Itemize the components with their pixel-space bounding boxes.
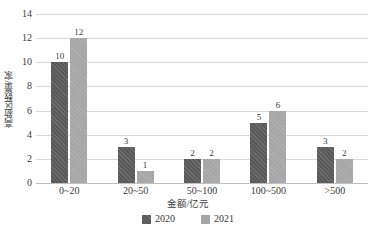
bar-group: 22 — [169, 14, 235, 183]
legend-swatch-icon — [201, 215, 210, 224]
x-axis-tick-labels: 0~2020~5050~100100~500>500 — [36, 185, 368, 199]
bar-2020-20~50[interactable]: 3 — [118, 147, 135, 183]
bar-value-label: 6 — [276, 101, 281, 110]
bar-value-label: 2 — [209, 149, 214, 158]
bar-column: 2 — [203, 14, 220, 183]
y-tick-label: 6 — [10, 106, 32, 116]
bar-value-label: 1 — [143, 161, 148, 170]
bar-column: 2 — [184, 14, 201, 183]
bar-value-label: 10 — [55, 52, 64, 61]
bar-column: 3 — [317, 14, 334, 183]
bar-2020-100~500[interactable]: 5 — [250, 123, 267, 183]
bar-column: 12 — [70, 14, 87, 183]
x-tick-label: >500 — [302, 185, 368, 199]
y-tick-label: 14 — [10, 9, 32, 19]
x-tick-label: 50~100 — [169, 185, 235, 199]
y-tick-label: 8 — [10, 81, 32, 91]
legend-label: 2021 — [214, 214, 234, 224]
y-tick-label: 12 — [10, 33, 32, 43]
y-tick-label: 10 — [10, 57, 32, 67]
bar-2021-50~100[interactable]: 2 — [203, 159, 220, 183]
y-tick-label: 2 — [10, 154, 32, 164]
bar-column: 10 — [51, 14, 68, 183]
bar-value-label: 3 — [323, 137, 328, 146]
bar-value-label: 3 — [124, 137, 129, 146]
bar-value-label: 2 — [342, 149, 347, 158]
bar-column: 3 — [118, 14, 135, 183]
y-tick-label: 0 — [10, 178, 32, 188]
bar-group: 1012 — [36, 14, 102, 183]
bar-chart: 高新区数量/家 02468101214 101231225632 0~2020~… — [0, 0, 376, 237]
legend-label: 2020 — [155, 214, 175, 224]
bar-column: 1 — [137, 14, 154, 183]
bar-value-label: 2 — [190, 149, 195, 158]
bar-2020-0~20[interactable]: 10 — [51, 62, 68, 183]
axis-baseline — [36, 183, 368, 184]
plot-area: 101231225632 — [36, 14, 368, 183]
bar-value-label: 12 — [74, 28, 83, 37]
x-axis-title: 金额/亿元 — [0, 199, 376, 210]
bar-column: 2 — [336, 14, 353, 183]
x-tick-label: 100~500 — [235, 185, 301, 199]
bar-2021-100~500[interactable]: 6 — [269, 111, 286, 183]
legend-item-2021[interactable]: 2021 — [201, 214, 234, 224]
legend-swatch-icon — [142, 215, 151, 224]
bar-column: 5 — [250, 14, 267, 183]
bar-2021-20~50[interactable]: 1 — [137, 171, 154, 183]
bar-2021-0~20[interactable]: 12 — [70, 38, 87, 183]
x-tick-label: 0~20 — [36, 185, 102, 199]
bar-group: 56 — [235, 14, 301, 183]
bar-group: 31 — [102, 14, 168, 183]
x-tick-label: 20~50 — [102, 185, 168, 199]
bar-2020-50~100[interactable]: 2 — [184, 159, 201, 183]
bar-2021->500[interactable]: 2 — [336, 159, 353, 183]
bar-groups: 101231225632 — [36, 14, 368, 183]
chart-legend: 20202021 — [0, 214, 376, 224]
y-tick-label: 4 — [10, 130, 32, 140]
bar-column: 6 — [269, 14, 286, 183]
legend-item-2020[interactable]: 2020 — [142, 214, 175, 224]
bar-group: 32 — [302, 14, 368, 183]
bar-value-label: 5 — [257, 113, 262, 122]
bar-2020->500[interactable]: 3 — [317, 147, 334, 183]
